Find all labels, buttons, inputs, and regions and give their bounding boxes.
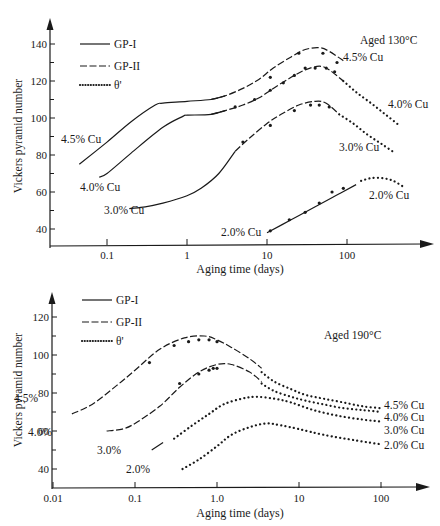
y-ticks-top: 406080100120140	[31, 38, 56, 235]
y-tick-label: 60	[36, 186, 48, 198]
x-tick-label: 0.01	[43, 492, 62, 504]
legend-top: GP-I GP-II θ'	[80, 38, 140, 91]
curve-3.0-cu-gp-i	[129, 151, 235, 208]
label-bottom-2.0-left: 2.0%	[126, 463, 150, 475]
x-tick-label: 100	[339, 249, 356, 261]
legend-gp2-label: GP-II	[114, 60, 140, 72]
label-bottom-4.0-left: 4.0%	[28, 426, 52, 438]
x-tick-label: 1.0	[210, 492, 224, 504]
chart-aged-130c: 406080100120140 0.1110100 GP-I GP-II θ' …	[12, 18, 434, 276]
data-point	[282, 81, 285, 84]
curve-2.0-	[183, 423, 382, 469]
data-point	[215, 367, 218, 370]
data-point	[333, 70, 336, 73]
data-point	[241, 140, 244, 143]
data-point	[335, 61, 338, 64]
curve-4.5-	[262, 372, 381, 408]
label-bottom-4.0-right: 4.0% Cu	[384, 411, 425, 423]
curve-4.0-gp-ii	[107, 364, 262, 431]
curve-4.0-cu-gp-i	[99, 111, 225, 178]
data-point	[293, 109, 296, 112]
label-bottom-3.0-right: 3.0% Cu	[384, 424, 425, 436]
label-bottom-3.0-left: 3.0%	[97, 444, 121, 456]
y-tick-label: 120	[33, 311, 50, 323]
legend-gp2-label: GP-II	[116, 316, 142, 328]
data-point	[342, 187, 345, 190]
y-tick-label: 100	[31, 112, 48, 124]
x-tick-label: 100	[373, 492, 390, 504]
data-point	[215, 340, 218, 343]
x-axis-bottom	[52, 487, 420, 488]
annotation-aged-130c: Aged 130°C	[360, 34, 418, 47]
label-bottom-4.5-right: 4.5% Cu	[384, 399, 425, 411]
data-point	[309, 103, 312, 106]
data-point	[207, 369, 210, 372]
data-point	[253, 98, 256, 101]
curve-4.5-cu-gp-i	[79, 96, 225, 165]
y-axis-arrow-icon	[49, 292, 56, 304]
legend-theta-label: θ'	[116, 335, 124, 347]
label-top-3.0-right: 3.0% Cu	[339, 141, 380, 153]
data-point	[197, 372, 200, 375]
label-top-3.0-left: 3.0% Cu	[104, 204, 145, 216]
data-point	[325, 66, 328, 69]
data-point	[148, 361, 151, 364]
data-point	[173, 344, 176, 347]
curve-3.0-gp-i	[152, 442, 163, 450]
legend-gp1-label: GP-I	[114, 38, 137, 50]
curve-2.0-cu-	[361, 178, 403, 187]
curve-4.0-cu-gp-ii	[211, 66, 343, 114]
legend-gp1-label: GP-I	[116, 294, 139, 306]
data-point	[304, 211, 307, 214]
y-axis-label-bottom: Vickers pyramid number	[12, 333, 25, 447]
data-point	[269, 124, 272, 127]
data-point	[269, 76, 272, 79]
x-tick-label: 10	[262, 249, 274, 261]
chart-aged-190c: 406080100120 0.010.11.010100 GP-I GP-II …	[12, 292, 430, 520]
data-point	[330, 190, 333, 193]
label-top-4.0-right: 4.0% Cu	[388, 98, 429, 110]
curve-4.0-	[262, 384, 381, 413]
data-point	[207, 338, 210, 341]
data-point	[318, 202, 321, 205]
data-point	[288, 218, 291, 221]
curve-2.0-cu-gp-i	[267, 185, 356, 233]
data-point	[269, 89, 272, 92]
data-point	[212, 367, 215, 370]
data-point	[304, 66, 307, 69]
figure: 406080100120140 0.1110100 GP-I GP-II θ' …	[0, 0, 440, 526]
label-bottom-2.0-right: 2.0% Cu	[384, 439, 425, 451]
data-point	[234, 105, 237, 108]
y-tick-label: 140	[31, 38, 48, 50]
x-axis-arrow-icon	[420, 240, 434, 248]
annotation-aged-190c: Aged 190°C	[324, 329, 382, 342]
label-bottom-4.5-left: 4.5%	[14, 392, 38, 404]
legend-bottom: GP-I GP-II θ'	[82, 294, 142, 347]
data-point	[328, 105, 331, 108]
y-tick-label: 80	[38, 387, 50, 399]
data-point	[178, 382, 181, 385]
label-top-4.5-left: 4.5% Cu	[61, 133, 102, 145]
y-tick-label: 40	[36, 223, 48, 235]
x-tick-label: 10	[294, 492, 306, 504]
x-ticks-top: 0.1110100	[100, 239, 356, 261]
x-ticks-bottom: 0.010.11.010100	[43, 482, 389, 504]
curve-4.5-cu-gp-ii	[211, 48, 343, 100]
y-tick-label: 40	[38, 463, 50, 475]
data-point	[297, 52, 300, 55]
y-axis-arrow-icon	[47, 18, 54, 30]
y-tick-label: 80	[36, 149, 48, 161]
legend-theta-label: θ'	[114, 79, 122, 91]
label-top-2.0-right: 2.0% Cu	[369, 189, 410, 201]
data-point	[187, 340, 190, 343]
x-tick-label: 0.1	[100, 249, 114, 261]
data-point	[321, 52, 324, 55]
x-tick-label: 1	[184, 249, 190, 261]
label-top-4.0-left: 4.0% Cu	[80, 181, 121, 193]
data-point	[197, 338, 200, 341]
data-point	[269, 229, 272, 232]
curve-3.0-cu-gp-ii	[235, 101, 339, 151]
data-points-bottom	[148, 338, 219, 385]
data-point	[318, 103, 321, 106]
y-axis-label-top: Vickers pyramid number	[12, 79, 25, 193]
